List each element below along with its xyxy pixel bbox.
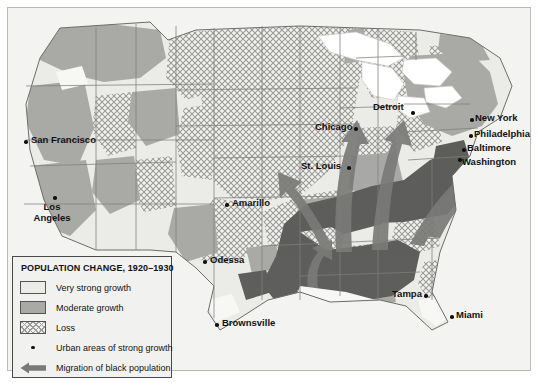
legend-item-loss: Loss (20, 318, 164, 337)
city-dot-chicago (354, 127, 358, 131)
legend-symbol-migration-arrow (20, 362, 46, 374)
city-dot-new-york (470, 118, 474, 122)
city-label-new-york: New York (475, 113, 517, 124)
city-label-los-angeles: Los Angeles (20, 202, 84, 223)
legend-symbol-urban-dot (20, 346, 46, 350)
city-label-odessa: Odessa (210, 255, 244, 266)
urban-dot-icon (31, 346, 35, 350)
city-dot-baltimore (462, 148, 466, 152)
city-dot-washington (458, 158, 462, 162)
legend-item-moderate-growth: Moderate growth (20, 298, 164, 317)
legend-swatch-very-strong-growth (20, 281, 46, 294)
legend-item-urban-areas: Urban areas of strong growth (20, 338, 164, 357)
legend-item-very-strong-growth: Very strong growth (20, 278, 164, 297)
map-figure: San Francisco Los Angeles Amarillo Odess… (0, 0, 538, 392)
legend-title: POPULATION CHANGE, 1920–1930 (21, 263, 164, 273)
city-label-washington: Washington (462, 157, 516, 168)
city-label-amarillo: Amarillo (232, 198, 270, 209)
city-dot-brownsville (215, 323, 219, 327)
city-label-los-angeles-line2: Angeles (34, 212, 71, 223)
city-label-chicago: Chicago (315, 122, 352, 133)
city-label-brownsville: Brownsville (222, 318, 275, 329)
migration-arrow-icon (20, 362, 46, 374)
city-dot-detroit (411, 111, 415, 115)
legend-label-moderate-growth: Moderate growth (56, 303, 124, 313)
city-dot-st-louis (347, 166, 351, 170)
city-label-philadelphia: Philadelphia (474, 129, 530, 140)
city-label-st-louis: St. Louis (301, 161, 341, 172)
city-dot-amarillo (225, 203, 229, 207)
city-dot-philadelphia (469, 134, 473, 138)
city-dot-los-angeles (53, 196, 57, 200)
city-label-miami: Miami (456, 310, 483, 321)
legend-label-very-strong-growth: Very strong growth (56, 283, 131, 293)
city-label-tampa: Tampa (392, 289, 422, 300)
city-label-los-angeles-line1: Los (44, 201, 61, 212)
city-dot-tampa (424, 294, 428, 298)
city-label-baltimore: Baltimore (467, 143, 511, 154)
legend-label-migration: Migration of black population (56, 363, 171, 373)
city-label-detroit: Detroit (373, 102, 404, 113)
legend-label-loss: Loss (56, 323, 75, 333)
city-dot-san-francisco (24, 140, 28, 144)
legend-swatch-loss (20, 321, 46, 334)
map-legend: POPULATION CHANGE, 1920–1930 Very strong… (12, 256, 172, 378)
legend-swatch-moderate-growth (20, 301, 46, 314)
legend-item-migration: Migration of black population (20, 358, 164, 377)
city-dot-odessa (203, 260, 207, 264)
city-dot-miami (450, 315, 454, 319)
legend-label-urban-areas: Urban areas of strong growth (56, 343, 173, 353)
city-label-san-francisco: San Francisco (31, 135, 96, 146)
